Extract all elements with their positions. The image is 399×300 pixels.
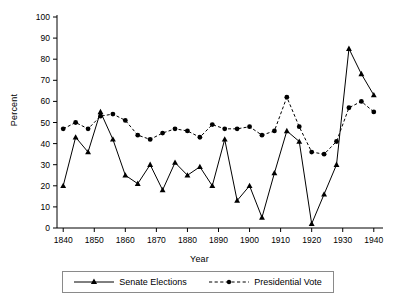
svg-text:1840: 1840 (54, 235, 73, 245)
chart-series (60, 46, 376, 226)
svg-text:1930: 1930 (333, 235, 352, 245)
svg-text:1880: 1880 (178, 235, 197, 245)
legend-label-senate-elections: Senate Elections (119, 277, 187, 287)
svg-text:90: 90 (41, 33, 51, 43)
svg-text:10: 10 (41, 202, 51, 212)
svg-text:1910: 1910 (271, 235, 290, 245)
chart-figure: 0102030405060708090100184018501860187018… (0, 0, 399, 300)
svg-text:30: 30 (41, 160, 51, 170)
svg-text:1860: 1860 (116, 235, 135, 245)
svg-text:1900: 1900 (240, 235, 259, 245)
y-axis-label: Percent (9, 80, 19, 140)
svg-text:60: 60 (41, 96, 51, 106)
svg-text:1890: 1890 (209, 235, 228, 245)
svg-text:1940: 1940 (364, 235, 383, 245)
x-axis-label: Year (0, 254, 399, 264)
chart-legend: Senate Elections Presidential Vote (62, 271, 334, 293)
svg-text:1850: 1850 (85, 235, 104, 245)
svg-text:20: 20 (41, 181, 51, 191)
legend-swatch-dashed-circle (209, 277, 249, 287)
legend-label-presidential-vote: Presidential Vote (254, 277, 322, 287)
legend-item-presidential-vote: Presidential Vote (209, 277, 322, 287)
svg-text:70: 70 (41, 75, 51, 85)
legend-item-senate-elections: Senate Elections (74, 277, 187, 287)
svg-text:1920: 1920 (302, 235, 321, 245)
legend-swatch-solid-triangle (74, 277, 114, 287)
svg-text:40: 40 (41, 139, 51, 149)
svg-text:1870: 1870 (147, 235, 166, 245)
svg-text:100: 100 (36, 12, 50, 22)
svg-text:0: 0 (45, 223, 50, 233)
svg-text:50: 50 (41, 118, 51, 128)
svg-text:80: 80 (41, 54, 51, 64)
